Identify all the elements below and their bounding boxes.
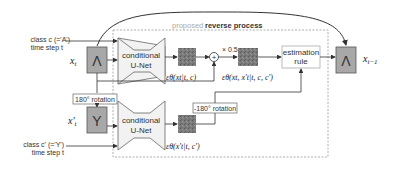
unet-top-line1: conditional bbox=[122, 51, 160, 60]
plus-sign: + bbox=[212, 53, 217, 62]
x-prime-t-label: x't bbox=[67, 115, 78, 128]
input-time-bottom: time step t bbox=[32, 149, 64, 157]
output-glyph: Λ bbox=[341, 53, 351, 69]
eps-combined-label: εθ(xt, x't|t, c, c') bbox=[222, 73, 273, 82]
input-time-top: time step t bbox=[31, 44, 63, 52]
x-t-glyph: Λ bbox=[92, 53, 102, 69]
unet-bottom-line1: conditional bbox=[122, 116, 160, 125]
output-label: xt−1 bbox=[362, 53, 378, 66]
x-t-label: xt bbox=[69, 55, 77, 68]
estimation-line2: rule bbox=[294, 57, 308, 66]
input-class-bottom: class c' (='Y') bbox=[23, 141, 64, 149]
rotation-backward-label: -180° rotation bbox=[194, 105, 236, 112]
eps-combined-noise bbox=[238, 48, 258, 66]
process-title-main: reverse process bbox=[205, 21, 263, 30]
eps-bottom-label: εθ(x't|t, c') bbox=[166, 142, 200, 151]
eps-bottom-noise bbox=[178, 115, 196, 133]
input-class-top: class c (='A') bbox=[31, 36, 70, 44]
scale-label: × 0.5 bbox=[222, 46, 238, 53]
x-prime-t-glyph: Y bbox=[92, 113, 102, 129]
estimation-line1: estimation bbox=[283, 48, 319, 57]
unet-top-line2: U-Net bbox=[131, 61, 153, 70]
rotation-forward-label: 180° rotation bbox=[75, 96, 115, 103]
eps-top-noise bbox=[178, 48, 196, 66]
process-title-prefix: proposed bbox=[172, 21, 203, 30]
reverse-process-diagram: proposed reverse process class c (='A') … bbox=[0, 0, 397, 170]
unet-bottom-line2: U-Net bbox=[131, 126, 153, 135]
